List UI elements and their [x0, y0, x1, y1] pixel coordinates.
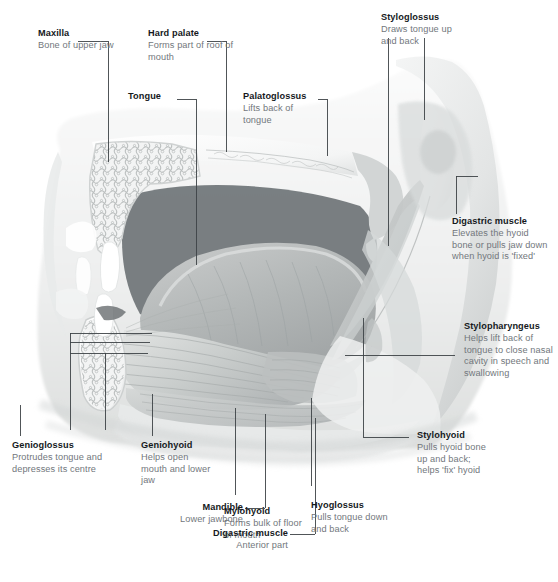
callout-title: Palatoglossus [243, 91, 323, 103]
callout-description: Anterior part [102, 540, 288, 552]
callout-hard-palate: Hard palate Forms part of roof of mouth [148, 28, 234, 63]
callout-styloglossus: Styloglossus Draws tongue up and back [381, 12, 465, 47]
callout-title: Stylopharyngeus [464, 321, 558, 333]
callout-title: Stylohyoid [417, 430, 489, 442]
callout-stylopharyngeus: Stylopharyngeus Helps lift back of tongu… [464, 321, 558, 380]
callout-title: Hyoglossus [311, 500, 397, 512]
callout-title: Maxilla [38, 28, 138, 40]
callout-title: Geniohyoid [141, 440, 213, 452]
callout-digastric-muscle-anterior: Digastric muscle Anterior part [102, 528, 288, 552]
callout-title: Mandible [55, 502, 243, 514]
callout-description: Lower jawbone [55, 514, 243, 526]
callout-description: Helps lift back of tongue to close nasal… [464, 333, 558, 380]
callout-title: Genioglossus [12, 440, 118, 452]
callout-description: Bone of upper jaw [38, 40, 138, 52]
callout-mandible: Mandible Lower jawbone [55, 502, 243, 526]
callout-genioglossus: Genioglossus Protrudes tongue and depres… [12, 440, 118, 475]
anatomy-figure: Maxilla Bone of upper jaw Hard palate Fo… [0, 0, 558, 582]
callout-description: Helps open mouth and lower jaw [141, 452, 213, 487]
callout-hyoglossus: Hyoglossus Pulls tongue down and back [311, 500, 397, 535]
callout-title: Hard palate [148, 28, 234, 40]
callout-description: Elevates the hyoid bone or pulls jaw dow… [452, 228, 552, 263]
callout-description: Pulls tongue down and back [311, 512, 397, 536]
callout-title: Tongue [128, 91, 188, 103]
callout-stylohyoid: Stylohyoid Pulls hyoid bone up and back;… [417, 430, 489, 477]
callout-description: Protrudes tongue and depresses its centr… [12, 452, 118, 476]
callout-title: Styloglossus [381, 12, 465, 24]
callout-palatoglossus: Palatoglossus Draws tongue up and back L… [243, 91, 323, 126]
callout-description: Pulls hyoid bone up and back; helps 'fix… [417, 442, 489, 477]
callout-tongue: Tongue [128, 91, 188, 103]
callout-description: Forms part of roof of mouth [148, 40, 234, 64]
callout-title: Digastric muscle [102, 528, 288, 540]
callout-description: Draws tongue up and back [381, 24, 465, 48]
anatomy-illustration [0, 0, 558, 582]
callout-digastric-muscle: Digastric muscle Elevates the hyoid bone… [452, 216, 552, 263]
callout-description: Lifts back of tongue [243, 103, 323, 127]
callout-maxilla: Maxilla Bone of upper jaw [38, 28, 138, 52]
callout-geniohyoid: Geniohyoid Helps open mouth and lower ja… [141, 440, 213, 487]
callout-title: Digastric muscle [452, 216, 552, 228]
